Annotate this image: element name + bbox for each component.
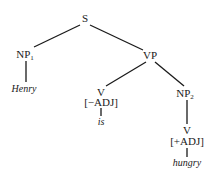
syntax-tree-diagram: S NP1 Henry VP V [−ADJ] is NP2 V [+ADJ] … — [0, 0, 214, 181]
edge-vp-v1 — [106, 62, 146, 86]
node-vp: VP — [143, 49, 157, 61]
node-np2: NP2 — [176, 87, 194, 101]
word-hungry: hungry — [173, 157, 202, 168]
feature-minus-adj: [−ADJ] — [84, 96, 118, 108]
word-is: is — [98, 116, 105, 127]
edge-s-np1 — [34, 25, 80, 47]
word-henry: Henry — [11, 83, 38, 94]
feature-plus-adj: [+ADJ] — [170, 135, 204, 147]
edge-vp-np2 — [155, 62, 184, 86]
node-s: S — [82, 12, 88, 24]
tree-svg: S NP1 Henry VP V [−ADJ] is NP2 V [+ADJ] … — [0, 0, 214, 181]
edge-s-vp — [90, 25, 143, 50]
node-np1: NP1 — [16, 48, 34, 62]
